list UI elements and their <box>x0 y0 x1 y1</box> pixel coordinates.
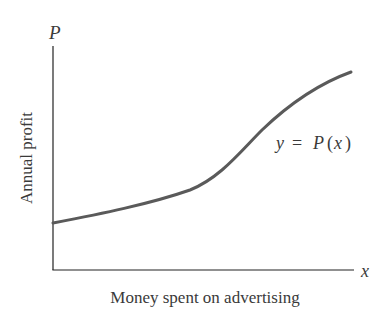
curve-label-equals: = <box>292 133 302 153</box>
curve-label-P: P <box>312 133 324 153</box>
x-axis-title: Money spent on advertising <box>110 288 300 307</box>
curve-label-open-paren: ( <box>327 133 333 154</box>
chart-canvas: P x Annual profit Money spent on adverti… <box>0 0 382 313</box>
curve-label-close-paren: ) <box>345 133 351 154</box>
x-axis-symbol: x <box>360 261 369 281</box>
curve-label: y = P ( x ) <box>274 133 351 154</box>
curve-label-x: x <box>333 133 342 153</box>
y-axis-symbol: P <box>48 22 61 43</box>
svg-text:y = P (: y = P ( x ) <box>274 133 351 154</box>
curve-label-y: y <box>274 133 284 153</box>
y-axis-title: Annual profit <box>17 112 36 204</box>
